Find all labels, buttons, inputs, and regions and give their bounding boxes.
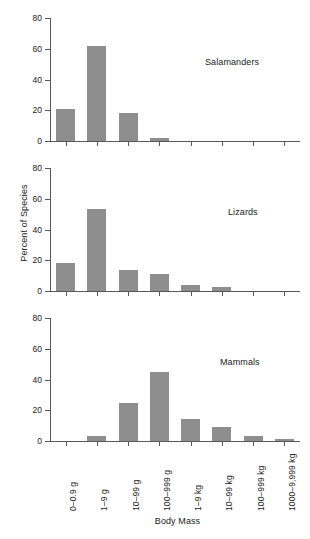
y-tick-label: 20 xyxy=(18,256,42,265)
y-tick xyxy=(45,318,50,319)
bar xyxy=(119,403,138,441)
y-tick xyxy=(45,110,50,111)
y-tick xyxy=(45,380,50,381)
y-tick-label: 40 xyxy=(18,376,42,385)
y-tick xyxy=(45,49,50,50)
bar xyxy=(87,209,106,291)
x-category-label: 1–9 kg xyxy=(194,485,203,511)
y-tick xyxy=(45,291,50,292)
bar xyxy=(181,419,200,441)
x-category-label: 100–999 g xyxy=(163,470,172,511)
figure: Percent of Species Salamanders 020406080… xyxy=(0,0,310,539)
bar xyxy=(150,372,169,441)
x-tick xyxy=(253,142,254,146)
y-tick xyxy=(45,141,50,142)
bar xyxy=(56,109,75,141)
y-tick-label: 80 xyxy=(18,164,42,173)
x-tick xyxy=(97,292,98,296)
y-tick-label: 0 xyxy=(18,137,42,146)
x-axis-line xyxy=(50,141,300,142)
x-category-label: 0–0.9 g xyxy=(69,482,78,511)
x-axis-title: Body Mass xyxy=(45,516,310,526)
bar xyxy=(212,287,231,291)
y-tick-label: 60 xyxy=(18,345,42,354)
y-tick xyxy=(45,349,50,350)
y-tick xyxy=(45,410,50,411)
x-tick xyxy=(159,292,160,296)
y-tick xyxy=(45,18,50,19)
y-tick-label: 80 xyxy=(18,314,42,323)
bar xyxy=(150,138,169,141)
x-tick xyxy=(97,142,98,146)
x-tick xyxy=(253,292,254,296)
x-category-label: 10–99 g xyxy=(132,480,141,511)
x-tick xyxy=(66,142,67,146)
x-axis-category-labels: 0–0.9 g1–9 g10–99 g100–999 g1–9 kg10–99 … xyxy=(0,441,310,513)
y-tick xyxy=(45,168,50,169)
x-category-label: 100–999 kg xyxy=(257,466,266,511)
y-tick xyxy=(45,199,50,200)
plot-area xyxy=(50,168,300,291)
x-tick xyxy=(159,142,160,146)
plot-area xyxy=(50,318,300,441)
x-category-label: 1000–9,999 kg xyxy=(288,453,297,511)
x-tick xyxy=(222,142,223,146)
y-tick-label: 40 xyxy=(18,76,42,85)
y-tick-label: 20 xyxy=(18,106,42,115)
bar xyxy=(181,285,200,291)
y-tick-label: 0 xyxy=(18,287,42,296)
x-axis-line xyxy=(50,291,300,292)
x-tick xyxy=(191,292,192,296)
bar xyxy=(119,270,138,291)
x-tick xyxy=(128,292,129,296)
bar xyxy=(87,46,106,141)
y-tick-label: 40 xyxy=(18,226,42,235)
x-category-label: 10–99 kg xyxy=(225,475,234,511)
y-tick xyxy=(45,80,50,81)
y-tick-label: 80 xyxy=(18,14,42,23)
x-tick xyxy=(191,142,192,146)
panel-label-lizards: Lizards xyxy=(228,207,258,217)
x-category-label: 1–9 g xyxy=(100,489,109,511)
y-tick-label: 60 xyxy=(18,195,42,204)
bar xyxy=(56,263,75,291)
bar xyxy=(119,113,138,141)
y-tick xyxy=(45,230,50,231)
y-tick-label: 60 xyxy=(18,45,42,54)
y-tick xyxy=(45,260,50,261)
plot-area xyxy=(50,18,300,141)
y-axis-title: Percent of Species xyxy=(19,163,29,283)
x-tick xyxy=(128,142,129,146)
x-tick xyxy=(66,292,67,296)
bar xyxy=(150,274,169,291)
x-tick xyxy=(284,292,285,296)
x-tick xyxy=(284,142,285,146)
x-tick xyxy=(222,292,223,296)
bar xyxy=(212,427,231,441)
panel-label-mammals: Mammals xyxy=(220,357,260,367)
y-tick-label: 20 xyxy=(18,406,42,415)
panel-label-salamanders: Salamanders xyxy=(205,57,259,67)
